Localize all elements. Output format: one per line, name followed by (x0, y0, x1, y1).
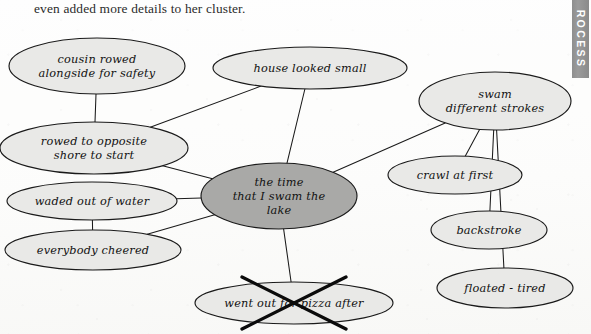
node-label-rowed-opposite: rowed to opposite (41, 135, 148, 148)
node-label-cousin-rowed: alongside for safety (39, 67, 156, 80)
node-label-swam-strokes: swam (478, 88, 512, 101)
connector-cousin-rowed-to-rowed-opposite (95, 94, 96, 122)
cluster-node-backstroke[interactable]: backstroke (431, 211, 547, 249)
node-label-backstroke: backstroke (456, 224, 521, 237)
cluster-node-floated-tired[interactable]: floated - tired (437, 268, 573, 308)
connector-rowed-opposite-to-center (163, 166, 213, 179)
cluster-node-cousin-rowed[interactable]: cousin rowedalongside for safety (9, 38, 185, 94)
connector-everybody-cheered-to-center (147, 215, 215, 235)
cluster-node-rowed-opposite[interactable]: rowed to oppositeshore to start (0, 122, 188, 174)
node-label-waded-out: waded out of water (35, 195, 150, 208)
node-label-swam-strokes: different strokes (446, 102, 545, 115)
cluster-node-center[interactable]: the timethat I swam thelake (201, 163, 357, 229)
node-label-center: the time (254, 176, 303, 189)
cluster-diagram: the timethat I swam thelakecousin roweda… (0, 0, 591, 334)
node-label-floated-tired: floated - tired (463, 282, 545, 295)
node-label-center: that I swam the (233, 190, 326, 203)
connector-swam-strokes-to-crawl-at-first (465, 129, 479, 156)
connector-waded-out-to-center (176, 198, 201, 199)
cluster-nodes: the timethat I swam thelakecousin roweda… (0, 38, 573, 324)
cluster-node-house-looked-small[interactable]: house looked small (213, 47, 407, 89)
connector-house-looked-small-to-center (287, 89, 305, 163)
node-label-house-looked-small: house looked small (253, 62, 366, 75)
cluster-node-crawl-at-first[interactable]: crawl at first (388, 156, 522, 194)
connector-center-to-pizza-after (284, 229, 292, 282)
cluster-node-everybody-cheered[interactable]: everybody cheered (5, 230, 181, 270)
node-label-crawl-at-first: crawl at first (417, 169, 494, 182)
cluster-node-waded-out[interactable]: waded out of water (7, 182, 177, 220)
cluster-node-swam-strokes[interactable]: swamdifferent strokes (419, 72, 571, 130)
connector-rowed-opposite-to-house-looked-small (150, 86, 261, 127)
node-label-center: lake (267, 204, 292, 217)
node-label-rowed-opposite: shore to start (54, 149, 135, 162)
node-label-cousin-rowed: cousin rowed (58, 53, 137, 66)
node-label-everybody-cheered: everybody cheered (37, 244, 149, 257)
scanned-page: even added more details to her cluster. … (0, 0, 591, 334)
